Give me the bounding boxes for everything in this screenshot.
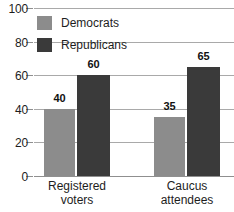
ytick-label-60: 60: [4, 70, 28, 82]
ytick-label-0: 0: [4, 171, 28, 183]
gridline-0: [34, 176, 234, 177]
bar-value-caucus-attendees-republicans: 65: [187, 51, 220, 62]
bar-caucus-attendees-republicans: [187, 67, 220, 176]
ytick-label-40: 40: [4, 104, 28, 116]
group-label-registered-voters-line2: voters: [61, 193, 94, 207]
group-label-caucus-attendees-line2: attendees: [161, 193, 214, 207]
bar-registered-voters-republicans: [77, 75, 110, 176]
ytick-label-100: 100: [4, 3, 28, 15]
bar-value-registered-voters-republicans: 60: [77, 59, 110, 70]
legend-label-democrats: Democrats: [61, 17, 119, 29]
bar-chart: 100 80 60 40 20 0 Democrats Republicans …: [0, 0, 234, 212]
legend-item-republicans: Republicans: [37, 38, 127, 52]
bar-registered-voters-democrats: [44, 109, 75, 176]
ytick-label-80: 80: [4, 37, 28, 49]
group-label-registered-voters-line1: Registered: [48, 179, 106, 193]
legend-swatch-republicans-icon: [37, 38, 52, 52]
legend-swatch-democrats-icon: [37, 16, 52, 30]
group-label-caucus-attendees-line1: Caucus: [167, 179, 208, 193]
group-label-registered-voters: Registered voters: [32, 180, 122, 208]
bar-value-caucus-attendees-democrats: 35: [154, 101, 185, 112]
group-label-caucus-attendees: Caucus attendees: [142, 180, 232, 208]
bar-value-registered-voters-democrats: 40: [44, 93, 75, 104]
gridline-100: [34, 8, 234, 9]
ytick-label-20: 20: [4, 137, 28, 149]
legend-label-republicans: Republicans: [61, 39, 127, 51]
bar-caucus-attendees-democrats: [154, 117, 185, 176]
legend-item-democrats: Democrats: [37, 16, 119, 30]
